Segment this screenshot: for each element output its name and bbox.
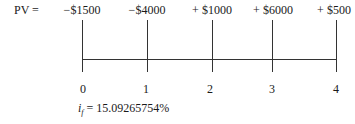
cash-flow-0: −$1500 [64,3,101,18]
period-label-1: 1 [143,82,149,97]
rate-equals: = [87,101,94,115]
rate-subscript: f [81,108,83,117]
tick-line-0 [82,20,83,72]
cash-flow-1: −$4000 [129,3,166,18]
period-label-4: 4 [333,82,339,97]
time-axis [82,59,337,60]
tick-line-1 [147,20,148,72]
cash-flow-2: + $1000 [192,3,232,18]
tick-line-2 [212,20,213,72]
interest-rate: if = 15.09265754% [78,101,169,117]
tick-line-3 [272,20,273,72]
tick-line-4 [336,20,337,72]
pv-label: PV = [14,3,39,18]
period-label-3: 3 [269,82,275,97]
period-label-2: 2 [207,82,213,97]
cash-flow-3: + $6000 [253,3,293,18]
cash-flow-4: + $500 [317,3,351,18]
period-label-0: 0 [80,82,86,97]
rate-value: 15.09265754% [96,101,169,115]
